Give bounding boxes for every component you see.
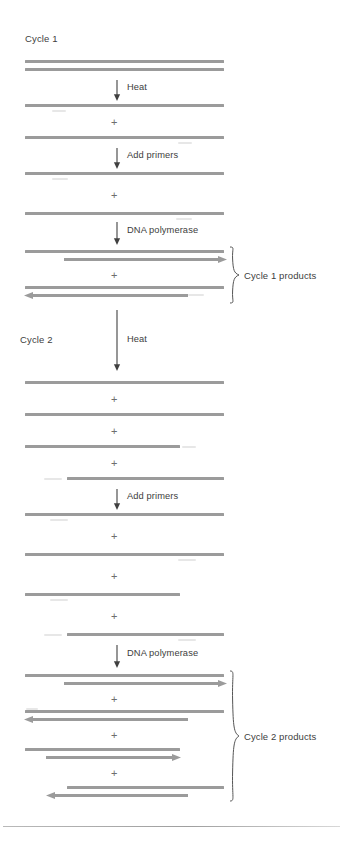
dna-strand-template xyxy=(25,250,224,253)
primer-ghost-mark xyxy=(44,634,62,636)
plus-symbol: + xyxy=(111,611,117,622)
dna-strand xyxy=(25,136,224,139)
step-label-heat: Heat xyxy=(127,334,147,344)
dna-strand-short-right xyxy=(67,633,224,636)
dna-strand-template-short xyxy=(67,786,224,789)
step-label-dna-polymerase: DNA polymerase xyxy=(127,648,198,658)
plus-symbol: + xyxy=(111,730,117,741)
cycle-2-title: Cycle 2 xyxy=(20,334,53,345)
dna-strand-new-reverse xyxy=(22,292,188,299)
dna-strand-new-forward xyxy=(64,256,228,263)
plus-symbol: + xyxy=(111,394,117,405)
footer-divider xyxy=(3,826,340,827)
pcr-diagram: Cycle 1 Heat + Add primers + xyxy=(0,0,343,843)
dna-strand xyxy=(25,172,224,175)
primer-mark xyxy=(178,639,196,641)
primer-ghost-mark xyxy=(188,294,204,296)
primer-ghost-mark xyxy=(182,446,196,448)
step-label-dna-polymerase: DNA polymerase xyxy=(127,225,198,235)
dna-strand xyxy=(25,413,224,416)
process-arrow-dna-polymerase xyxy=(112,222,126,246)
dna-strand-new-reverse xyxy=(44,792,188,799)
primer-mark xyxy=(50,599,68,601)
primer-ghost-mark xyxy=(178,142,192,144)
dna-strand xyxy=(25,553,224,556)
process-arrow-heat xyxy=(112,310,126,372)
step-label-heat: Heat xyxy=(127,82,147,92)
dna-strand xyxy=(25,104,224,107)
primer-ghost-mark xyxy=(26,708,38,710)
primer-mark xyxy=(50,519,68,521)
dna-strand-new-forward xyxy=(46,754,182,761)
dna-strand xyxy=(25,381,224,384)
plus-symbol: + xyxy=(111,571,117,582)
cycle-2-products-label: Cycle 2 products xyxy=(244,731,316,742)
cycle-1-products-label: Cycle 1 products xyxy=(244,270,316,281)
primer-mark xyxy=(52,178,68,180)
dna-strand xyxy=(25,68,224,71)
process-arrow-add-primers xyxy=(112,148,126,170)
process-arrow-add-primers xyxy=(112,489,126,511)
plus-symbol: + xyxy=(111,694,117,705)
primer-mark xyxy=(178,559,196,561)
plus-symbol: + xyxy=(111,768,117,779)
process-arrow-heat xyxy=(112,80,126,102)
dna-strand xyxy=(25,60,224,63)
dna-strand-new-reverse xyxy=(22,716,188,723)
process-arrow-dna-polymerase xyxy=(112,645,126,669)
dna-strand xyxy=(25,212,224,215)
dna-strand-template xyxy=(25,710,224,713)
brace-cycle-2-products xyxy=(228,670,241,802)
cycle-1-title: Cycle 1 xyxy=(25,33,58,44)
primer-ghost-mark xyxy=(52,110,66,112)
dna-strand-new-forward xyxy=(64,680,228,687)
step-label-add-primers: Add primers xyxy=(127,491,178,501)
primer-mark xyxy=(176,218,192,220)
step-label-add-primers: Add primers xyxy=(127,150,178,160)
dna-strand xyxy=(25,513,224,516)
dna-strand-template xyxy=(25,674,224,677)
primer-ghost-mark xyxy=(44,478,62,480)
plus-symbol: + xyxy=(111,117,117,128)
plus-symbol: + xyxy=(111,190,117,201)
dna-strand-template-short xyxy=(25,748,180,751)
plus-symbol: + xyxy=(111,270,117,281)
dna-strand-short-right xyxy=(67,477,224,480)
dna-strand-short-left xyxy=(25,445,180,448)
plus-symbol: + xyxy=(111,531,117,542)
brace-cycle-1-products xyxy=(228,246,241,304)
plus-symbol: + xyxy=(111,458,117,469)
dna-strand-short-left xyxy=(25,593,180,596)
dna-strand-template xyxy=(25,286,224,289)
plus-symbol: + xyxy=(111,426,117,437)
